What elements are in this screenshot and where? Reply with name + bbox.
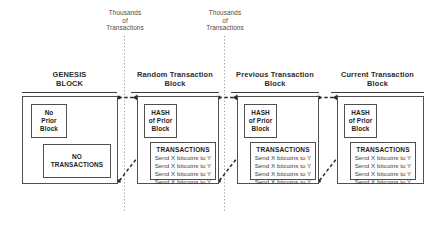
annotation-line: Thousands [90, 9, 160, 17]
transactions-list: Send X bitcoins to Y Send X bitcoins to … [351, 154, 415, 186]
annotation-thousands-left: Thousands of Transactions [90, 9, 160, 32]
header-line: HASH [151, 109, 170, 117]
header-line: of Prior [249, 117, 273, 125]
blockchain-diagram: Thousands of Transactions Thousands of T… [0, 0, 446, 227]
header-line: Block [152, 125, 170, 133]
transaction-item: Send X bitcoins to Y [351, 154, 415, 162]
random-hash-box: HASH of Prior Block [144, 104, 177, 138]
block-title-line: Block [229, 79, 321, 88]
previous-transaction-block: HASH of Prior Block TRANSACTIONS Send X … [237, 96, 319, 184]
block-title-current: Current Transaction Block [331, 70, 424, 88]
block-title-line: Block [129, 79, 221, 88]
transaction-item: Send X bitcoins to Y [151, 162, 215, 170]
transaction-item: Send X bitcoins to Y [151, 178, 215, 186]
transaction-item: Send X bitcoins to Y [251, 162, 315, 170]
transactions-list: Send X bitcoins to Y Send X bitcoins to … [151, 154, 215, 186]
annotation-thousands-right: Thousands of Transactions [190, 9, 260, 32]
random-transaction-block: HASH of Prior Block TRANSACTIONS Send X … [137, 96, 219, 184]
genesis-block: No Prior Block NO TRANSACTIONS [22, 96, 118, 184]
transactions-list: Send X bitcoins to Y Send X bitcoins to … [251, 154, 315, 186]
transactions-heading: TRANSACTIONS [351, 146, 415, 154]
block-title-line: GENESIS [22, 70, 117, 79]
header-line: Block [40, 125, 58, 133]
current-transaction-block: HASH of Prior Block TRANSACTIONS Send X … [337, 96, 424, 184]
header-line: Prior [41, 117, 56, 125]
transaction-item: Send X bitcoins to Y [351, 170, 415, 178]
block-title-line: Block [331, 79, 424, 88]
block-title-random: Random Transaction Block [129, 70, 221, 88]
no-transactions-line: NO [72, 153, 82, 161]
previous-transactions-box: TRANSACTIONS Send X bitcoins to Y Send X… [250, 142, 316, 180]
header-line: of Prior [349, 117, 373, 125]
annotation-line: of [190, 17, 260, 25]
transaction-item: Send X bitcoins to Y [351, 178, 415, 186]
transaction-item: Send X bitcoins to Y [251, 154, 315, 162]
annotation-line: of [90, 17, 160, 25]
no-transactions-line: TRANSACTIONS [51, 161, 104, 169]
block-title-line: BLOCK [22, 79, 117, 88]
header-line: Block [352, 125, 370, 133]
current-hash-box: HASH of Prior Block [344, 104, 377, 138]
block-title-genesis: GENESIS BLOCK [22, 70, 117, 88]
current-transactions-box: TRANSACTIONS Send X bitcoins to Y Send X… [350, 142, 416, 180]
annotation-line: Transactions [190, 24, 260, 32]
block-title-line: Random Transaction [129, 70, 221, 79]
transaction-item: Send X bitcoins to Y [251, 178, 315, 186]
block-title-previous: Previous Transaction Block [229, 70, 321, 88]
header-line: HASH [351, 109, 370, 117]
header-line: HASH [251, 109, 270, 117]
genesis-no-transactions-box: NO TRANSACTIONS [43, 144, 111, 178]
annotation-line: Transactions [90, 24, 160, 32]
previous-hash-box: HASH of Prior Block [244, 104, 277, 138]
genesis-header-box: No Prior Block [31, 104, 67, 138]
random-transactions-box: TRANSACTIONS Send X bitcoins to Y Send X… [150, 142, 216, 180]
transaction-item: Send X bitcoins to Y [351, 162, 415, 170]
transactions-heading: TRANSACTIONS [251, 146, 315, 154]
block-title-line: Previous Transaction [229, 70, 321, 79]
transactions-heading: TRANSACTIONS [151, 146, 215, 154]
transaction-item: Send X bitcoins to Y [151, 154, 215, 162]
header-line: of Prior [149, 117, 173, 125]
transaction-item: Send X bitcoins to Y [251, 170, 315, 178]
transaction-item: Send X bitcoins to Y [151, 170, 215, 178]
header-line: Block [252, 125, 270, 133]
block-title-line: Current Transaction [331, 70, 424, 79]
annotation-line: Thousands [190, 9, 260, 17]
header-line: No [45, 109, 54, 117]
